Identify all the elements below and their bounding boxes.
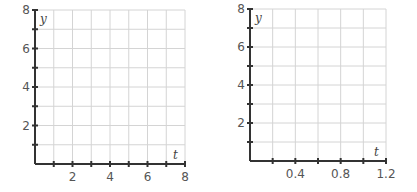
y-tick-label: 4 xyxy=(237,78,245,92)
x-axis-label: t xyxy=(173,148,178,162)
y-axis-label: y xyxy=(39,12,47,26)
y-axis-label: y xyxy=(254,11,262,25)
y-tick-label: 8 xyxy=(22,3,30,17)
x-tick-label: 2 xyxy=(69,170,77,184)
x-tick-label: 4 xyxy=(106,170,114,184)
y-tick-label: 6 xyxy=(22,42,30,56)
y-tick-label: 6 xyxy=(237,40,245,54)
chart-2: 0.40.81.22468yt xyxy=(237,2,395,181)
y-tick-label: 8 xyxy=(237,2,245,16)
x-axis-label: t xyxy=(374,145,379,159)
x-tick-label: 1.2 xyxy=(376,167,395,181)
x-tick-label: 8 xyxy=(181,170,189,184)
y-tick-label: 2 xyxy=(237,116,245,130)
y-tick-label: 4 xyxy=(22,80,30,94)
chart-canvas: 24682468yt0.40.81.22468yt xyxy=(0,0,417,192)
x-tick-label: 0.4 xyxy=(286,167,305,181)
x-tick-label: 0.8 xyxy=(331,167,350,181)
chart-1: 24682468yt xyxy=(22,3,188,184)
x-tick-label: 6 xyxy=(144,170,152,184)
y-tick-label: 2 xyxy=(22,119,30,133)
